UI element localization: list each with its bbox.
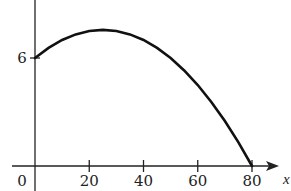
x-ticks: 020406080	[17, 160, 261, 190]
axes	[12, 0, 279, 191]
x-tick-label: 80	[242, 172, 261, 190]
x-axis-label: x	[282, 171, 290, 187]
x-tick-label: 0	[17, 172, 27, 190]
y-tick-label: 6	[17, 49, 27, 67]
x-tick-label: 60	[188, 172, 207, 190]
x-tick-label: 20	[80, 172, 99, 190]
x-tick-label: 40	[134, 172, 153, 190]
data-curve	[35, 30, 252, 166]
chart: 020406080 6 x	[0, 0, 291, 191]
